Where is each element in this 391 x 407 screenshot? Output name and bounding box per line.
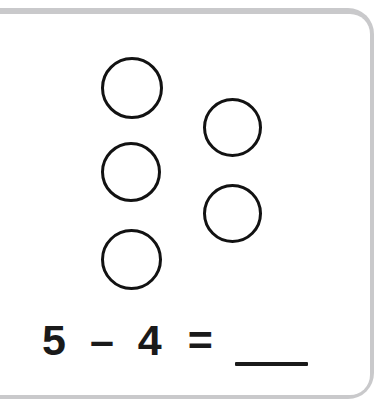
equation-row: 5 – 4 = [40, 318, 340, 378]
counter-1 [101, 57, 163, 119]
counter-4 [203, 184, 262, 243]
equation-minuend: 5 [42, 318, 66, 362]
equation-subtrahend: 4 [138, 318, 162, 362]
counter-2 [203, 98, 262, 157]
answer-blank-line[interactable] [235, 362, 308, 366]
counter-3 [101, 142, 161, 202]
equals-sign: = [188, 318, 213, 362]
math-worksheet-problem: 5 – 4 = [0, 0, 391, 407]
minus-sign: – [90, 318, 114, 362]
counter-5 [101, 229, 162, 290]
